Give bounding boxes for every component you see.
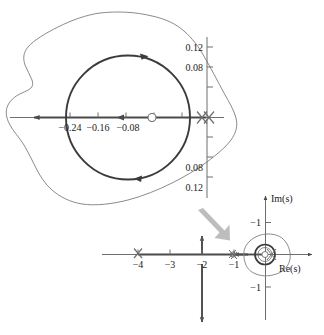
main-real-tick-label-2: −2 xyxy=(197,259,208,270)
inset-magnified-view: −0.24 −0.16 −0.08 0.12 0.08 0.08 0.12 xyxy=(6,12,237,205)
main-zero-marker-origin xyxy=(262,252,268,258)
inset-imag-tick-label-upper-0: 0.12 xyxy=(186,42,204,53)
inset-zero-marker xyxy=(148,114,156,122)
magnify-pointer-arrow xyxy=(198,208,230,241)
main-imag-tick-label-1: −1 xyxy=(250,282,261,293)
inset-imag-ticks xyxy=(207,47,213,177)
main-pole-cluster-minus1 xyxy=(229,250,237,259)
inset-imag-tick-label-upper-1: 0.08 xyxy=(186,62,204,73)
root-locus-figure: −0.24 −0.16 −0.08 0.12 0.08 0.08 0.12 xyxy=(0,0,324,335)
main-imag-tick-label-0: −1 xyxy=(250,217,261,228)
main-real-axis-label: Re(s) xyxy=(279,263,301,275)
main-imag-axis-label: Im(s) xyxy=(271,193,293,205)
main-real-tick-label-1: −3 xyxy=(165,259,176,270)
figure-svg: −0.24 −0.16 −0.08 0.12 0.08 0.08 0.12 xyxy=(0,0,324,335)
main-real-tick-label-3: −1 xyxy=(229,259,240,270)
inset-imag-tick-label-lower-1: 0.12 xyxy=(186,182,204,193)
inset-real-branch-direction-arrow xyxy=(117,115,125,121)
inset-circle-arrow-bottom xyxy=(134,176,142,182)
inset-real-tick-label-0: −0.24 xyxy=(58,122,81,133)
inset-imag-tick-label-lower-0: 0.08 xyxy=(186,162,204,173)
inset-real-tick-label-1: −0.16 xyxy=(86,122,109,133)
inset-outer-contour xyxy=(6,12,237,205)
inset-real-tick-label-2: −0.08 xyxy=(116,122,139,133)
main-real-tick-label-0: −4 xyxy=(133,259,144,270)
